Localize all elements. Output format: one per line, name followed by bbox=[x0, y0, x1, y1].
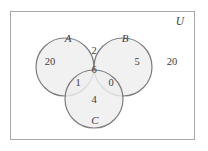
universal-set-label: U bbox=[176, 16, 184, 28]
region-count-a-and-b-and-c: 6 bbox=[91, 65, 96, 76]
region-count-a-and-b: 2 bbox=[91, 46, 96, 57]
region-count-b-only: 5 bbox=[134, 57, 139, 68]
region-count-a-only: 20 bbox=[45, 57, 56, 68]
region-count-c-only: 4 bbox=[91, 95, 96, 106]
region-count-outside-all: 20 bbox=[167, 57, 178, 68]
set-a-label: A bbox=[65, 33, 72, 44]
venn-diagram-figure: U A B C 20 5 2 6 1 0 4 20 bbox=[0, 0, 208, 151]
set-c-label: C bbox=[91, 115, 98, 126]
region-count-b-and-c: 0 bbox=[108, 78, 113, 89]
region-count-a-and-c: 1 bbox=[75, 78, 80, 89]
set-b-label: B bbox=[122, 33, 129, 44]
